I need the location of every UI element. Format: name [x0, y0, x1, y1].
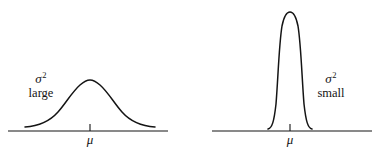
variance-comparison-figure: σ2 large σ2 small μ μ [0, 0, 380, 159]
mu-axis-label-left: μ [74, 133, 106, 147]
bell-curve-small-variance [268, 12, 312, 129]
sigma-symbol-large: σ2 [14, 72, 68, 86]
variance-word-large: large [14, 87, 68, 101]
variance-word-small: small [304, 87, 358, 101]
mu-axis-label-right: μ [274, 133, 306, 147]
sigma-symbol-small: σ2 [304, 72, 358, 86]
sigma-squared-small-label: σ2 small [304, 72, 358, 100]
sigma-squared-large-label: σ2 large [14, 72, 68, 100]
sigma-exponent-small: 2 [332, 70, 336, 80]
sigma-exponent-large: 2 [42, 70, 46, 80]
